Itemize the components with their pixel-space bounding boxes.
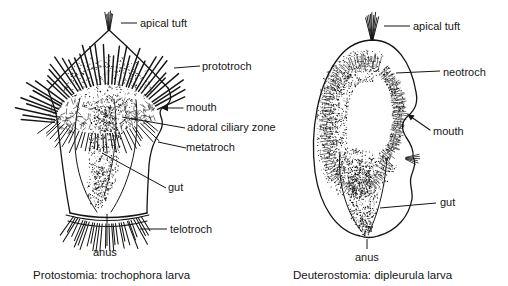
- leader-metatroch: [158, 142, 186, 148]
- label-mouth-right: mouth: [433, 125, 464, 137]
- caption-deuterostomia: Deuterostomia: dipleurula larva: [293, 269, 453, 281]
- gut-left-wall: [75, 98, 97, 212]
- label-anus-left: anus: [93, 246, 117, 258]
- leader-adoral-ciliary-zone: [122, 117, 185, 128]
- left-figure-labels: apical tuft prototroch mouth adoral cili…: [33, 17, 276, 281]
- label-gut-left: gut: [168, 181, 183, 193]
- gut-right-wall: [111, 100, 137, 212]
- label-prototroch: prototroch: [202, 60, 252, 72]
- label-apical-tuft-left: apical tuft: [140, 17, 187, 29]
- leader-gut-left: [102, 153, 166, 188]
- leader-gut-right: [380, 203, 436, 208]
- body-bottom-edge: [70, 213, 147, 218]
- label-leader-lines: [102, 23, 440, 249]
- larva-comparison-figure: apical tuft prototroch mouth adoral cili…: [0, 0, 508, 286]
- label-metatroch: metatroch: [186, 141, 235, 153]
- label-gut-right: gut: [440, 196, 455, 208]
- label-neotroch: neotroch: [443, 66, 486, 78]
- leader-neotroch: [396, 71, 440, 73]
- label-apical-tuft-right: apical tuft: [413, 20, 460, 32]
- label-anus-right: anus: [355, 251, 379, 263]
- label-mouth-left: mouth: [186, 101, 217, 113]
- gut-right-wall: [369, 158, 387, 232]
- caption-protostomia: Protostomia: trochophora larva: [33, 269, 191, 281]
- leader-prototroch: [174, 66, 200, 68]
- label-adoral-ciliary-zone: adoral ciliary zone: [187, 121, 276, 133]
- diagram-canvas: apical tuft prototroch mouth adoral cili…: [0, 0, 508, 286]
- dipleurula-texture-layer: [316, 50, 404, 237]
- label-telotroch: telotroch: [170, 223, 212, 235]
- trochophore-texture-layer: [49, 56, 156, 208]
